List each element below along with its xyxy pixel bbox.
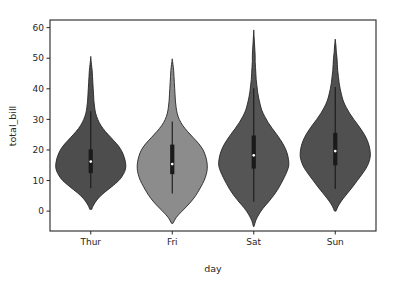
median-marker-sun [334, 150, 337, 153]
iqr-box-sun [333, 133, 337, 165]
iqr-box-fri [170, 145, 174, 175]
x-tick-label: Thur [79, 237, 101, 247]
y-tick-label: 0 [38, 206, 44, 216]
iqr-box-sat [252, 135, 256, 168]
y-axis-title: total_bill [7, 106, 18, 146]
y-tick-label: 50 [33, 53, 45, 63]
y-tick-label: 20 [33, 145, 45, 155]
x-axis-title: day [204, 263, 222, 274]
x-tick-label: Sun [327, 237, 344, 247]
y-tick-label: 40 [33, 84, 45, 94]
violin-plot-canvas: 0102030405060ThurFriSatSun total_bill da… [0, 0, 393, 281]
x-tick-label: Sat [246, 237, 261, 247]
median-marker-fri [171, 163, 174, 166]
violin-plot-figure: 0102030405060ThurFriSatSun total_bill da… [0, 0, 393, 281]
x-tick-label: Fri [167, 237, 178, 247]
median-marker-thur [89, 160, 92, 163]
y-tick-label: 10 [33, 176, 45, 186]
y-tick-label: 30 [33, 115, 45, 125]
y-tick-label: 60 [33, 23, 45, 33]
median-marker-sat [252, 154, 255, 157]
